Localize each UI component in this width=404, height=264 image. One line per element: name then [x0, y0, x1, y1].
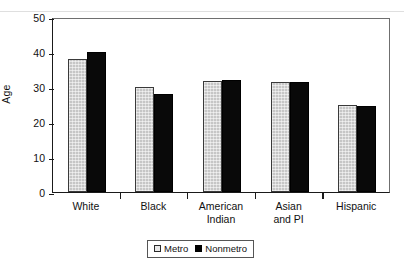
y-tick-mark [49, 194, 54, 195]
bar-nonmetro [290, 82, 309, 192]
bar-group [68, 19, 106, 192]
x-axis-tick [255, 193, 256, 199]
bar-nonmetro [154, 94, 173, 192]
y-tick-label: 10 [21, 152, 45, 165]
bar-metro [203, 81, 222, 192]
bars-layer [53, 19, 389, 192]
scan-artifact-line [0, 11, 404, 12]
bar-nonmetro [222, 80, 241, 192]
plot-area: 01020304050 [52, 18, 390, 193]
bar-metro [271, 82, 290, 192]
bar-chart-figure: Age 01020304050 WhiteBlackAmerican India… [0, 0, 404, 264]
bar-group [135, 19, 173, 192]
x-axis-category-label: White [52, 200, 120, 213]
bar-group [338, 19, 376, 192]
y-tick-label: 0 [21, 187, 45, 200]
legend-label: Metro [164, 243, 188, 255]
bar-nonmetro [357, 106, 376, 192]
x-axis-tick [322, 193, 323, 199]
bar-metro [135, 87, 154, 192]
x-axis-category-label: Black [120, 200, 188, 213]
y-axis-title: Age [0, 54, 12, 134]
y-tick-label: 20 [21, 117, 45, 130]
bar-metro [338, 105, 357, 192]
nonmetro-swatch-icon [195, 245, 202, 252]
bar-nonmetro [87, 52, 106, 192]
x-axis-tick [187, 193, 188, 199]
x-axis-category-label: Asian and PI [255, 200, 323, 225]
y-tick-label: 50 [21, 12, 45, 25]
bar-group [203, 19, 241, 192]
x-axis-tick [120, 193, 121, 199]
y-tick-label: 30 [21, 82, 45, 95]
x-axis-category-label: Hispanic [322, 200, 390, 213]
legend-item-metro[interactable]: Metro [154, 243, 188, 255]
bar-group [271, 19, 309, 192]
y-tick-label: 40 [21, 47, 45, 60]
chart-legend: MetroNonmetro [147, 240, 254, 258]
legend-label: Nonmetro [205, 243, 247, 255]
x-axis-category-label: American Indian [187, 200, 255, 225]
legend-item-nonmetro[interactable]: Nonmetro [195, 243, 247, 255]
bar-metro [68, 59, 87, 192]
metro-swatch-icon [154, 245, 161, 252]
